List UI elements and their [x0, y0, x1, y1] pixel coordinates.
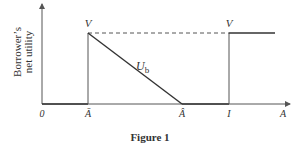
v-label-a-bar: V [85, 17, 93, 29]
figure-caption: Figure 1 [130, 131, 169, 143]
tick-a-bar: Ā [84, 108, 92, 119]
x-axis-label: A [279, 108, 287, 119]
ub-decline [88, 33, 182, 104]
v-label-i: V [226, 17, 234, 29]
svg-text:net utility: net utility [22, 30, 34, 73]
tick-a-hat: Â [178, 108, 186, 119]
y-axis-label: Borrower’s net utility [11, 27, 34, 77]
tick-i: I [226, 108, 231, 119]
figure-chart: Borrower’s net utility V V Ub 0 Ā Â I A … [0, 0, 301, 150]
ub-label: Ub [136, 59, 150, 75]
origin-label: 0 [40, 108, 45, 119]
